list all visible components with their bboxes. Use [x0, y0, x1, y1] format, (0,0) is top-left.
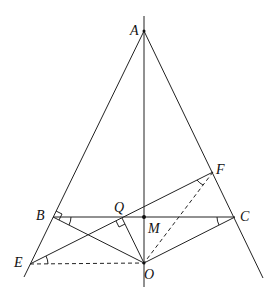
- segment-EO-dashed: [30, 263, 144, 264]
- point-O: [143, 262, 146, 265]
- angle-arc-BCO: [217, 217, 219, 225]
- segment-BO: [53, 217, 144, 263]
- label-M: M: [147, 221, 161, 236]
- segment-QO: [122, 218, 144, 263]
- angle-arc-EFO: [197, 180, 203, 185]
- label-O: O: [144, 267, 154, 282]
- label-C: C: [240, 209, 250, 224]
- point-M: [142, 215, 146, 219]
- label-Q: Q: [114, 200, 124, 215]
- label-E: E: [13, 255, 23, 270]
- geometry-diagram: A B C Q M O E F: [0, 0, 274, 301]
- segment-EF: [30, 172, 213, 264]
- line-A-right-extension: [144, 31, 263, 278]
- label-A: A: [129, 23, 139, 38]
- point-A: [143, 30, 146, 33]
- label-B: B: [36, 208, 45, 223]
- angle-arc-CBO: [69, 217, 71, 225]
- label-F: F: [215, 162, 225, 177]
- line-A-left-extension: [24, 31, 144, 277]
- angle-arc-FEO: [46, 256, 48, 264]
